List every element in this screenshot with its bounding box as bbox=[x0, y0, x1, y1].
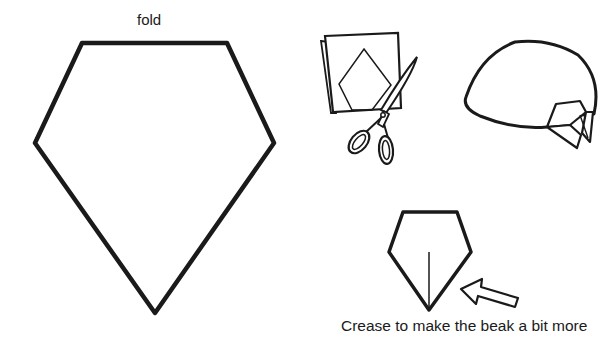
fold-label: fold bbox=[137, 11, 161, 28]
instruction-diagram bbox=[0, 0, 615, 338]
beak bbox=[547, 101, 593, 148]
cutting-illustration bbox=[321, 33, 417, 165]
pentagon-template bbox=[35, 43, 274, 313]
bird-head bbox=[465, 41, 596, 148]
beak-crease bbox=[389, 212, 518, 310]
crease-caption: Crease to make the beak a bit more bbox=[341, 317, 587, 335]
arrow-icon bbox=[461, 279, 518, 307]
